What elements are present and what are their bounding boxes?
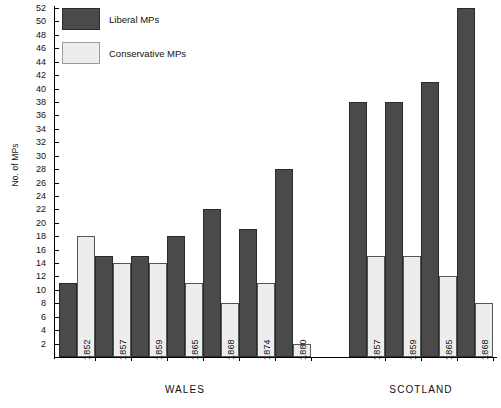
- y-tick-label: 46: [0, 43, 55, 53]
- x-tick-mark: [275, 357, 276, 361]
- y-tick-label: 44: [0, 57, 55, 67]
- y-tick-mark: [54, 263, 59, 264]
- y-tick-mark: [54, 129, 59, 130]
- y-tick-mark: [54, 196, 59, 197]
- y-tick-mark: [54, 8, 59, 9]
- y-tick-label: 2: [0, 339, 55, 349]
- bar-liberal: [203, 209, 221, 357]
- y-tick-mark: [54, 102, 59, 103]
- y-tick-mark: [54, 115, 59, 116]
- y-tick-mark: [54, 48, 59, 49]
- y-tick-label: 6: [0, 312, 55, 322]
- y-tick-label: 42: [0, 70, 55, 80]
- y-tick-label: 30: [0, 151, 55, 161]
- bar-liberal: [131, 256, 149, 357]
- bar-liberal: [421, 82, 439, 357]
- x-tick-label: 1874: [262, 339, 272, 360]
- x-tick-mark: [95, 357, 96, 361]
- bar-liberal: [385, 102, 403, 357]
- y-tick-label: 50: [0, 16, 55, 26]
- legend-label-conservative: Conservative MPs: [109, 48, 186, 59]
- y-tick-label: 4: [0, 325, 55, 335]
- y-tick-label: 34: [0, 124, 55, 134]
- x-tick-mark: [131, 357, 132, 361]
- y-tick-label: 48: [0, 30, 55, 40]
- y-tick-mark: [54, 62, 59, 63]
- y-tick-label: 10: [0, 285, 55, 295]
- group-label: SCOTLAND: [349, 384, 493, 395]
- x-tick-label: 1857: [372, 339, 382, 360]
- bar-liberal: [275, 169, 293, 357]
- y-tick-label: 40: [0, 84, 55, 94]
- x-tick-mark: [203, 357, 204, 361]
- y-tick-label: 18: [0, 231, 55, 241]
- y-tick-label: 36: [0, 110, 55, 120]
- y-tick-mark: [54, 183, 59, 184]
- y-tick-label: 28: [0, 164, 55, 174]
- y-tick-label: 16: [0, 245, 55, 255]
- bar-liberal: [95, 256, 113, 357]
- y-tick-label: 12: [0, 271, 55, 281]
- y-tick-mark: [54, 223, 59, 224]
- y-tick-label: 26: [0, 178, 55, 188]
- y-tick-mark: [54, 250, 59, 251]
- legend-swatch-conservative-icon: [62, 42, 100, 64]
- y-tick-mark: [54, 276, 59, 277]
- legend-label-liberal: Liberal MPs: [109, 14, 159, 25]
- bar-liberal: [239, 229, 257, 357]
- legend-item-conservative: Conservative MPs: [62, 42, 186, 64]
- y-tick-mark: [54, 89, 59, 90]
- group-label: WALES: [59, 384, 311, 395]
- y-tick-mark: [54, 75, 59, 76]
- y-tick-mark: [54, 169, 59, 170]
- x-tick-mark: [167, 357, 168, 361]
- x-tick-mark: [239, 357, 240, 361]
- y-tick-mark: [54, 35, 59, 36]
- x-tick-label: 1880: [298, 339, 308, 360]
- legend: Liberal MPs Conservative MPs: [62, 8, 186, 76]
- bar-liberal: [349, 102, 367, 357]
- y-tick-mark: [54, 142, 59, 143]
- legend-swatch-liberal-icon: [62, 8, 100, 30]
- bar-liberal: [167, 236, 185, 357]
- x-tick-label: 1868: [226, 339, 236, 360]
- y-tick-mark: [54, 236, 59, 237]
- bar-liberal: [457, 8, 475, 357]
- y-tick-label: 20: [0, 218, 55, 228]
- y-tick-label: 8: [0, 298, 55, 308]
- bar-chart: No. of MPs 24681012141618202224262830323…: [0, 0, 501, 408]
- x-tick-label: 1865: [444, 339, 454, 360]
- x-tick-mark: [493, 357, 494, 361]
- x-tick-mark: [421, 357, 422, 361]
- x-tick-label: 1857: [118, 339, 128, 360]
- y-tick-label: 24: [0, 191, 55, 201]
- y-tick-label: 22: [0, 204, 55, 214]
- y-tick-label: 14: [0, 258, 55, 268]
- x-tick-mark: [385, 357, 386, 361]
- x-tick-label: 1865: [190, 339, 200, 360]
- x-tick-label: 1859: [408, 339, 418, 360]
- x-tick-mark: [457, 357, 458, 361]
- bar-liberal: [59, 283, 77, 357]
- y-tick-mark: [54, 156, 59, 157]
- x-tick-label: 1852: [82, 339, 92, 360]
- x-tick-mark: [311, 357, 312, 361]
- x-tick-label: 1859: [154, 339, 164, 360]
- y-tick-label: 38: [0, 97, 55, 107]
- y-tick-label: 52: [0, 3, 55, 13]
- y-tick-label: 32: [0, 137, 55, 147]
- legend-item-liberal: Liberal MPs: [62, 8, 186, 30]
- y-tick-mark: [54, 209, 59, 210]
- y-tick-mark: [54, 21, 59, 22]
- x-tick-label: 1868: [480, 339, 490, 360]
